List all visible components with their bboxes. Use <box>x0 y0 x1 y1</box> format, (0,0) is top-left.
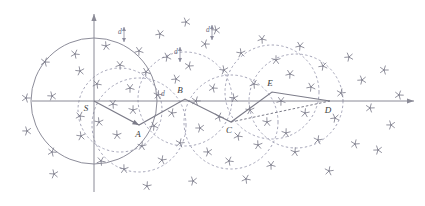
obstacle-marker <box>209 84 217 92</box>
obstacle-marker <box>296 42 304 50</box>
obstacle-marker <box>345 53 353 61</box>
distance-label-d1: d <box>118 27 122 36</box>
obstacle-marker <box>156 30 164 38</box>
node-label-d: D <box>324 105 332 115</box>
obstacle-marker <box>116 61 124 69</box>
obstacle-marker <box>282 129 290 137</box>
obstacle-marker <box>76 67 84 75</box>
obstacle-marker <box>337 89 345 97</box>
obstacle-marker <box>395 91 403 99</box>
distance-tick-d3 <box>178 47 182 62</box>
obstacle-marker <box>76 112 84 120</box>
obstacle-marker <box>258 35 266 43</box>
node-label-b: B <box>177 85 183 95</box>
distance-label-d2: d <box>161 89 165 98</box>
obstacle-marker <box>48 148 56 156</box>
obstacle-marker <box>189 177 197 185</box>
path-arrowheads-group <box>132 120 139 125</box>
obstacle-marker <box>325 167 333 175</box>
obstacle-marker <box>301 109 309 117</box>
obstacle-marker <box>291 148 299 156</box>
obstacle-marker <box>331 114 339 122</box>
obstacle-marker <box>23 127 31 135</box>
figure-canvas: dddd SABCED <box>0 0 425 206</box>
obstacle-marker <box>77 132 85 140</box>
coordinate-axes <box>32 14 414 192</box>
path-planning-diagram: dddd SABCED <box>0 0 425 206</box>
x-axis-arrowhead <box>407 98 414 103</box>
node-label-a: A <box>134 129 141 139</box>
obstacle-marker <box>204 148 212 156</box>
obstacle-marker <box>71 50 79 58</box>
obstacle-marker <box>150 122 158 130</box>
obstacle-marker <box>254 141 262 149</box>
obstacle-marker <box>387 121 395 129</box>
obstacle-marker <box>220 66 228 74</box>
obstacle-marker <box>129 106 137 114</box>
obstacle-marker <box>163 53 171 61</box>
obstacle-marker <box>50 170 58 178</box>
obstacle-marker <box>138 142 146 150</box>
obstacle-marker <box>314 136 322 144</box>
obstacle-marker <box>102 42 110 50</box>
obstacle-marker <box>358 76 366 84</box>
obstacle-marker <box>237 49 245 57</box>
obstacle-marker <box>242 175 250 183</box>
obstacle-markers-group <box>23 18 404 190</box>
dashed-circles-group <box>78 45 343 172</box>
obstacle-marker <box>374 146 382 154</box>
obstacle-marker <box>307 83 315 91</box>
distance-label-d4: d <box>206 25 210 34</box>
distance-tick-d4 <box>210 25 214 40</box>
circle-S-sub <box>78 68 162 152</box>
y-axis-arrowhead <box>91 14 96 21</box>
obstacle-marker <box>113 131 121 139</box>
obstacle-marker <box>201 40 209 48</box>
obstacle-marker <box>351 140 359 148</box>
obstacle-marker <box>143 182 151 190</box>
obstacle-marker <box>267 161 275 169</box>
node-label-e: E <box>266 78 273 88</box>
obstacle-marker <box>172 75 180 83</box>
obstacle-marker <box>23 94 31 102</box>
distance-tick-d1 <box>122 27 126 42</box>
obstacle-marker <box>182 18 190 26</box>
obstacle-marker <box>366 104 374 112</box>
obstacle-marker <box>263 118 271 126</box>
obstacle-marker <box>95 118 103 126</box>
obstacle-marker <box>196 124 204 132</box>
obstacle-marker <box>158 156 166 164</box>
obstacle-marker <box>48 92 56 100</box>
distance-label-d3: d <box>174 47 178 56</box>
obstacle-marker <box>319 62 327 70</box>
obstacle-marker <box>109 100 117 108</box>
obstacle-marker <box>381 66 389 74</box>
obstacle-marker <box>185 62 193 70</box>
obstacle-marker <box>286 70 294 78</box>
path-arrowhead-a <box>132 120 139 125</box>
node-label-c: C <box>226 125 233 135</box>
obstacle-marker <box>234 132 242 140</box>
node-label-s: S <box>84 103 89 113</box>
obstacle-marker <box>168 109 176 117</box>
obstacle-marker <box>225 157 233 165</box>
obstacle-marker <box>126 85 134 93</box>
